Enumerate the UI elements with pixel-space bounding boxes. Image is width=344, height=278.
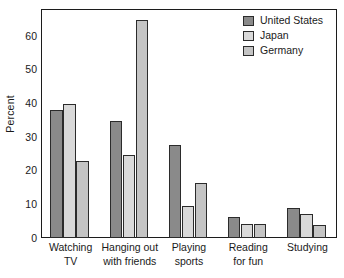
bar: [287, 208, 300, 238]
x-axis-label-line: Studying: [266, 241, 344, 255]
y-tick-label: 60: [25, 31, 41, 42]
bar-group: [41, 9, 100, 238]
legend-item: Germany: [243, 44, 339, 58]
bar: [123, 155, 136, 238]
legend-swatch-icon: [243, 46, 254, 56]
bar-group: [159, 9, 218, 238]
bar: [195, 183, 208, 238]
legend-label: Japan: [260, 30, 289, 41]
y-tick-label: 10: [25, 199, 41, 210]
y-axis-title: Percent: [4, 82, 16, 146]
bar: [241, 224, 254, 238]
bar: [76, 161, 89, 238]
x-axis-labels: WatchingTVHanging outwith friendsPlaying…: [41, 241, 337, 278]
bar: [63, 104, 76, 238]
legend-swatch-icon: [243, 16, 254, 26]
legend-label: United States: [260, 15, 323, 26]
y-tick-label: 30: [25, 132, 41, 143]
y-tick-label: 50: [25, 64, 41, 75]
bar: [136, 20, 149, 238]
bar-chart: Percent 0102030405060 WatchingTVHanging …: [0, 0, 344, 278]
bar: [50, 110, 63, 238]
bar: [169, 145, 182, 238]
x-axis-label-line: for fun: [207, 255, 290, 269]
bar: [182, 206, 195, 238]
bar: [110, 121, 123, 238]
chart-legend: United StatesJapanGermany: [243, 14, 339, 59]
bar-group: [100, 9, 159, 238]
bar: [313, 225, 326, 238]
legend-swatch-icon: [243, 31, 254, 41]
bar: [228, 217, 241, 238]
legend-item: United States: [243, 14, 339, 28]
x-axis-label: Studying: [266, 241, 344, 255]
legend-item: Japan: [243, 29, 339, 43]
bar: [300, 214, 313, 238]
y-tick-label: 20: [25, 165, 41, 176]
y-tick-label: 40: [25, 98, 41, 109]
bar: [254, 224, 267, 238]
legend-label: Germany: [260, 45, 303, 56]
